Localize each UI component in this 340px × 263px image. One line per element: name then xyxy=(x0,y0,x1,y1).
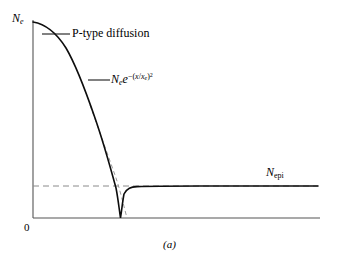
n-epi-base: N xyxy=(266,165,274,179)
gaussian-formula-label: Nee−(x/xe)2 xyxy=(111,72,153,87)
y-axis-label-base: N xyxy=(12,11,20,25)
plot-canvas xyxy=(0,0,340,263)
net-doping-curve xyxy=(33,22,318,218)
figure-caption: (a) xyxy=(163,239,176,250)
origin-label: 0 xyxy=(24,222,30,233)
n-epi-label: Nepi xyxy=(266,166,284,180)
n-epi-subscript: epi xyxy=(274,171,284,180)
figure-container: Ne 0 P-type diffusion Nee−(x/xe)2 Nepi (… xyxy=(0,0,340,263)
y-axis-label: Ne xyxy=(12,12,24,26)
y-axis-label-subscript: e xyxy=(20,17,24,26)
p-type-diffusion-label: P-type diffusion xyxy=(72,27,149,39)
formula-exponent: −(x/xe)2 xyxy=(128,72,153,81)
formula-n: N xyxy=(111,72,119,86)
